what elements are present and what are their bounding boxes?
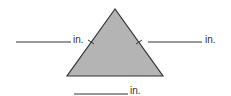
left-unit-label: in. [73,35,84,45]
bottom-unit-label: in. [130,86,141,96]
right-unit-label: in. [205,35,216,45]
triangle-diagram [0,0,231,96]
